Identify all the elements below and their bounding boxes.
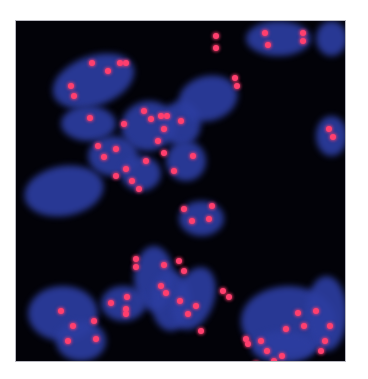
signal-dot bbox=[327, 323, 333, 329]
signal-dot bbox=[198, 328, 204, 334]
signal-dot bbox=[123, 60, 129, 66]
signal-dot bbox=[105, 68, 111, 74]
signal-dot bbox=[185, 311, 191, 317]
signal-dot bbox=[258, 338, 264, 344]
signal-dot bbox=[70, 323, 76, 329]
signal-dot bbox=[148, 116, 154, 122]
signal-dot bbox=[129, 178, 135, 184]
signal-dot bbox=[226, 294, 232, 300]
signal-dot bbox=[93, 336, 99, 342]
signal-dot bbox=[158, 283, 164, 289]
signal-dot bbox=[164, 113, 170, 119]
signal-dot bbox=[181, 268, 187, 274]
signal-dot bbox=[71, 93, 77, 99]
signal-dot bbox=[234, 83, 240, 89]
signal-dot bbox=[113, 173, 119, 179]
signal-dot bbox=[65, 338, 71, 344]
signal-dot bbox=[265, 42, 271, 48]
signal-dot bbox=[161, 150, 167, 156]
signal-dot bbox=[121, 121, 127, 127]
signal-dot bbox=[232, 75, 238, 81]
signal-dot bbox=[300, 38, 306, 44]
microscopy-image bbox=[15, 20, 346, 362]
signal-dot bbox=[176, 258, 182, 264]
signal-dot bbox=[300, 30, 306, 36]
signal-dot bbox=[190, 153, 196, 159]
signal-dot bbox=[101, 154, 107, 160]
signal-dot bbox=[326, 126, 332, 132]
signal-dot bbox=[68, 83, 74, 89]
signal-dot bbox=[264, 348, 270, 354]
signal-dot bbox=[133, 264, 139, 270]
signal-dot bbox=[206, 216, 212, 222]
signal-dot bbox=[322, 338, 328, 344]
signal-dot bbox=[123, 306, 129, 312]
signal-dot bbox=[295, 310, 301, 316]
signal-dot bbox=[123, 166, 129, 172]
signal-dot bbox=[209, 203, 215, 209]
signal-dot bbox=[193, 303, 199, 309]
signal-dot bbox=[161, 126, 167, 132]
signal-dot bbox=[136, 186, 142, 192]
signal-dot bbox=[161, 262, 167, 268]
signal-dot bbox=[177, 298, 183, 304]
signal-dot bbox=[143, 158, 149, 164]
signal-dot bbox=[262, 30, 268, 36]
signal-dot bbox=[181, 206, 187, 212]
signal-dot bbox=[87, 115, 93, 121]
signal-dot bbox=[113, 146, 119, 152]
signal-dot bbox=[58, 308, 64, 314]
signal-dot bbox=[108, 300, 114, 306]
signal-dot bbox=[313, 308, 319, 314]
signal-dot bbox=[141, 108, 147, 114]
signal-dot bbox=[271, 358, 277, 362]
signal-dot bbox=[163, 290, 169, 296]
signal-dot bbox=[279, 353, 285, 359]
signal-dot bbox=[178, 118, 184, 124]
signal-dot bbox=[133, 256, 139, 262]
signal-dot bbox=[95, 143, 101, 149]
signal-dot bbox=[301, 323, 307, 329]
signal-dot bbox=[318, 348, 324, 354]
signal-dot bbox=[283, 326, 289, 332]
signal-dot bbox=[91, 318, 97, 324]
signal-dot bbox=[155, 138, 161, 144]
signal-dot bbox=[253, 361, 259, 362]
signal-dot bbox=[189, 218, 195, 224]
signal-dot bbox=[124, 294, 130, 300]
signal-dot bbox=[220, 288, 226, 294]
signal-dot bbox=[330, 134, 336, 140]
signal-dot bbox=[171, 168, 177, 174]
signal-dot bbox=[243, 336, 249, 342]
signal-dots-layer bbox=[16, 21, 345, 361]
signal-dot bbox=[89, 60, 95, 66]
signal-dot bbox=[213, 33, 219, 39]
signal-dot bbox=[213, 45, 219, 51]
